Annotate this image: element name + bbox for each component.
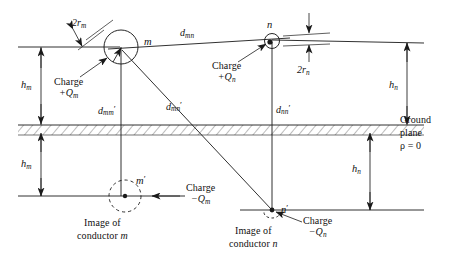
image-n-caption: Image of conductor n — [229, 225, 278, 251]
image-m-prime-mark: ′ — [144, 174, 146, 184]
charge-m-sub: m — [73, 91, 78, 100]
radius-n-guide-lower — [283, 44, 330, 46]
charge-m-prime-line2: −Qm — [186, 193, 215, 206]
radius-m-double-arrow — [73, 29, 82, 46]
charge-label-n: Charge +Qn — [212, 60, 241, 84]
charge-m-prime-q: −Q — [191, 193, 205, 204]
diagram-canvas — [0, 0, 449, 260]
distance-label-d-nn-prime: dnn′ — [276, 103, 290, 116]
image-n-caption-line1: Image of — [229, 225, 278, 238]
image-m-prime-dot — [123, 194, 127, 198]
radius-dimension-n — [283, 13, 330, 62]
conductor-n-dot — [267, 39, 272, 44]
charge-n-prime-q: −Q — [309, 226, 323, 237]
image-m-prime-name: m — [136, 175, 144, 186]
ground-plane-line3: ρ = 0 — [400, 139, 431, 152]
charge-label-m-line2: +Qm — [54, 87, 83, 100]
image-n-prime-mark: ′ — [286, 203, 288, 213]
image-n-caption-line2: conductor n — [229, 238, 278, 251]
distance-line-d-mn — [108, 38, 290, 49]
charge-label-n-line1: Charge — [212, 60, 241, 71]
ground-plane — [18, 125, 424, 135]
distance-label-d-mn: dmn — [180, 27, 194, 40]
distance-d-mm-prime-mark: ′ — [114, 104, 116, 114]
charge-n-prime-leader — [276, 212, 302, 222]
charge-m-prime-line1: Charge — [186, 182, 215, 193]
h-m-upper-sub: m — [26, 83, 31, 92]
conductor-n-label: n — [267, 19, 272, 31]
charge-n-q: +Q — [218, 71, 232, 82]
charge-n-prime-line1: Charge — [303, 215, 332, 226]
h-m-lower-sub: m — [26, 162, 31, 171]
image-m-caption-line1: Image of — [77, 217, 128, 230]
radius-m-leader-upper — [86, 20, 113, 40]
charge-label-m-line1: Charge — [54, 76, 83, 87]
charge-n-prime-sub: n — [323, 230, 327, 239]
image-n-caption-ital: n — [273, 238, 278, 249]
radius-label-m: 2rm — [72, 17, 86, 30]
charge-m-q: +Q — [59, 87, 73, 98]
h-n-lower-sub: n — [357, 167, 361, 176]
image-m-caption-text: conductor — [77, 230, 121, 241]
radius-label-n: 2rn — [297, 64, 310, 77]
distance-d-mn-sub: mn — [185, 31, 194, 40]
height-label-h-n-lower: hn — [352, 163, 361, 176]
charge-n-leader — [238, 44, 266, 62]
ground-plane-label: Ground plane ρ = 0 — [400, 113, 431, 152]
distance-d-mnp-sub: mn — [171, 104, 180, 113]
radius-label-n-main: 2r — [297, 64, 306, 75]
image-n-prime-arc — [264, 213, 280, 219]
charge-m-leader — [80, 58, 107, 77]
image-m-prime-label: m′ — [136, 174, 146, 186]
charge-n-prime-line2: −Qn — [303, 226, 332, 239]
radius-label-m-main: 2r — [72, 17, 81, 28]
charge-m-center-arrow — [113, 48, 121, 62]
height-label-h-m-lower: hm — [21, 158, 32, 171]
image-m-caption: Image of conductor m — [77, 217, 128, 243]
charge-label-m-prime: Charge −Qm — [186, 182, 215, 206]
conductor-m-label: m — [144, 36, 152, 48]
distance-d-nn-prime-mark: ′ — [288, 103, 290, 113]
distance-d-mm-sub: mm — [103, 108, 114, 117]
height-label-h-n-upper: hn — [389, 79, 398, 92]
charge-m-prime-sub: m — [205, 197, 210, 206]
reference-line-n-level — [272, 40, 424, 43]
ground-plane-line2: plane — [400, 126, 431, 139]
image-n-prime-label: n′ — [281, 203, 288, 215]
image-n-caption-text: conductor — [229, 238, 273, 249]
radius-label-n-sub: n — [306, 68, 310, 77]
image-m-caption-line2: conductor m — [77, 230, 128, 243]
distance-label-d-mn-prime: dmn′ — [166, 100, 182, 113]
height-label-h-m-upper: hm — [21, 79, 32, 92]
radius-label-m-sub: m — [81, 21, 86, 30]
charge-label-m: Charge +Qm — [54, 76, 83, 100]
charge-label-n-line2: +Qn — [212, 71, 241, 84]
image-n-prime-dot — [270, 208, 275, 213]
distance-d-mnp-prime-mark: ′ — [180, 100, 182, 110]
distance-label-d-mm-prime: dmm′ — [98, 104, 116, 117]
ground-plane-hatch — [18, 125, 424, 135]
image-charge-diagram: 2rm m n 2rn dmn Charge +Qm Charge +Qn hm… — [0, 0, 449, 260]
radius-n-guide-upper — [283, 33, 330, 36]
charge-n-sub: n — [232, 75, 236, 84]
image-m-caption-ital: m — [121, 230, 128, 241]
h-n-upper-sub: n — [394, 83, 398, 92]
charge-label-n-prime: Charge −Qn — [303, 215, 332, 239]
ground-plane-line1: Ground — [400, 113, 431, 126]
